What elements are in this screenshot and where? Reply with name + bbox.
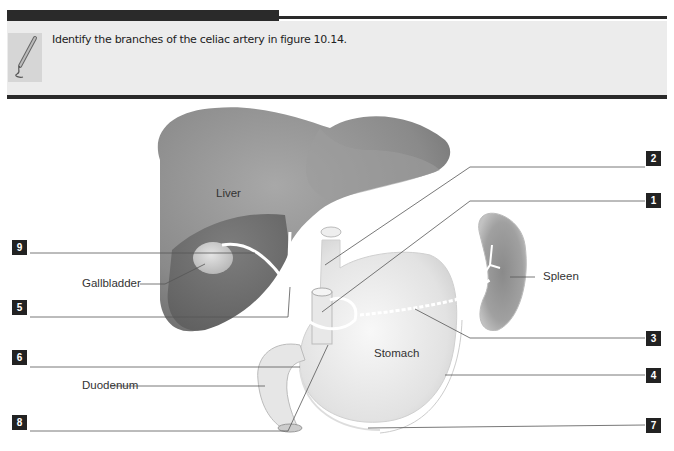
callout-4: 4 xyxy=(646,368,661,383)
callout-3: 3 xyxy=(646,331,661,346)
callout-2: 2 xyxy=(646,151,661,166)
label-duodenum: Duodenum xyxy=(82,379,138,391)
label-spleen: Spleen xyxy=(543,270,579,282)
callout-9: 9 xyxy=(12,240,27,255)
label-liver: Liver xyxy=(216,187,241,199)
callout-5: 5 xyxy=(12,300,27,315)
callout-8: 8 xyxy=(12,415,27,430)
label-stomach: Stomach xyxy=(374,347,419,359)
callout-7: 7 xyxy=(646,418,661,433)
callout-1: 1 xyxy=(646,193,661,208)
gallbladder xyxy=(193,242,233,274)
aorta xyxy=(312,292,332,344)
label-gallbladder: Gallbladder xyxy=(82,277,141,289)
callout-6: 6 xyxy=(12,350,27,365)
